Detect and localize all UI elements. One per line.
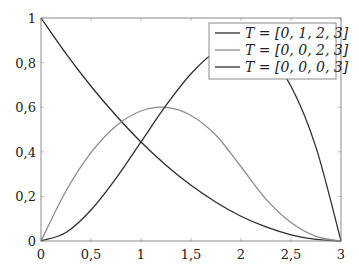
bspline-chart: 00,511,522,53 00,20,40,60,81 T = [0, 1, … xyxy=(0,0,359,270)
x-axis-labels: 00,511,522,53 xyxy=(37,247,345,262)
x-tick-label: 1 xyxy=(137,247,145,262)
legend-label: T = [0, 0, 2, 3] xyxy=(245,42,349,58)
legend: T = [0, 1, 2, 3]T = [0, 0, 2, 3]T = [0, … xyxy=(209,23,349,79)
series-line-1 xyxy=(41,107,341,241)
x-tick-label: 2,5 xyxy=(281,247,302,262)
y-tick-label: 0,4 xyxy=(15,145,36,160)
y-tick-label: 0,8 xyxy=(15,56,36,71)
y-tick-label: 0,6 xyxy=(15,100,36,115)
y-axis-labels: 00,20,40,60,81 xyxy=(15,11,36,249)
x-tick-label: 0 xyxy=(37,247,45,262)
x-tick-label: 2 xyxy=(237,247,245,262)
legend-label: T = [0, 0, 0, 3] xyxy=(245,59,349,75)
legend-label: T = [0, 1, 2, 3] xyxy=(245,25,349,41)
y-tick-label: 0,2 xyxy=(15,189,36,204)
x-tick-label: 1,5 xyxy=(181,247,202,262)
y-tick-label: 0 xyxy=(28,234,36,249)
x-tick-label: 0,5 xyxy=(81,247,102,262)
y-tick-label: 1 xyxy=(28,11,36,26)
x-tick-label: 3 xyxy=(337,247,345,262)
